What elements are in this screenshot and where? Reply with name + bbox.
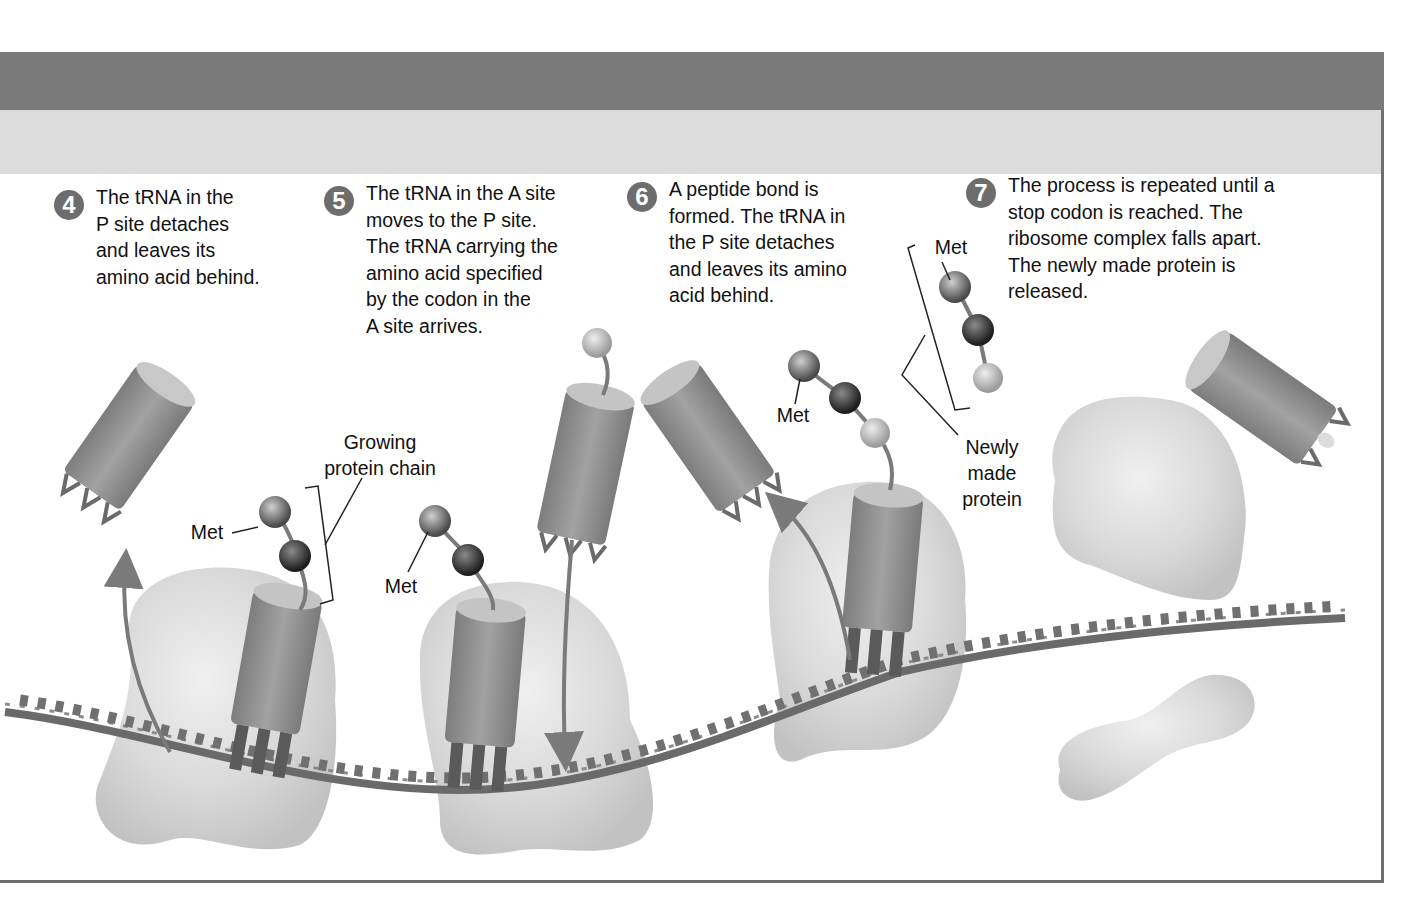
label-met-step4: Met [184, 519, 230, 545]
step-badge-4: 4 [54, 190, 84, 220]
label-met-step5: Met [378, 573, 424, 599]
label-met-step7: Met [928, 234, 974, 260]
ribosome-small-subunit-7 [1058, 675, 1254, 801]
protein-released-step7 [939, 271, 1003, 393]
step-text-6: A peptide bond is formed. The tRNA in th… [669, 176, 847, 309]
trna-leaving-step6 [634, 352, 786, 526]
step-text-4: The tRNA in the P site detaches and leav… [96, 184, 260, 290]
label-growing-protein-chain: Growing protein chain [310, 429, 450, 481]
step-badge-5: 5 [324, 186, 354, 216]
step-badge-6: 6 [627, 182, 657, 212]
step-text-5: The tRNA in the A site moves to the P si… [366, 180, 558, 339]
ribosome-large-subunit-7 [1052, 397, 1245, 600]
trna-incoming-step5 [533, 378, 638, 562]
trna-released-step4 [52, 355, 202, 527]
label-met-step6: Met [770, 402, 816, 428]
label-newly-made-protein: Newly made protein [946, 434, 1038, 512]
step-badge-7: 7 [966, 178, 996, 208]
translation-diagram [0, 0, 1421, 914]
step-text-7: The process is repeated until a stop cod… [1008, 172, 1275, 305]
